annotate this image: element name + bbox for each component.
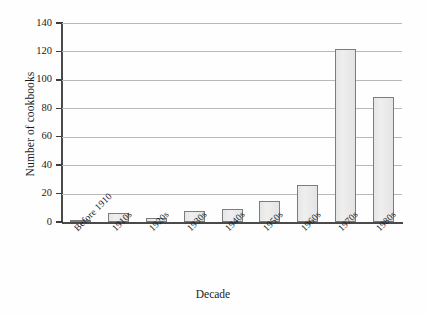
y-tick-label: 20	[12, 188, 52, 199]
gridline	[62, 23, 402, 24]
bar	[373, 97, 394, 222]
y-tick-label: 80	[12, 103, 52, 114]
plot-area	[62, 23, 402, 222]
y-tick-label: 60	[12, 131, 52, 142]
y-tick-label: 120	[12, 46, 52, 57]
y-axis-title: Number of cookbooks	[24, 34, 36, 214]
bar	[335, 49, 356, 222]
bar-chart: Number of cookbooks 020406080100120140 B…	[0, 0, 426, 315]
x-axis-title: Decade	[0, 288, 426, 300]
y-tick-label: 140	[12, 18, 52, 29]
y-tick-label: 100	[12, 74, 52, 85]
y-tick-label: 40	[12, 160, 52, 171]
y-tick-label: 0	[12, 217, 52, 228]
